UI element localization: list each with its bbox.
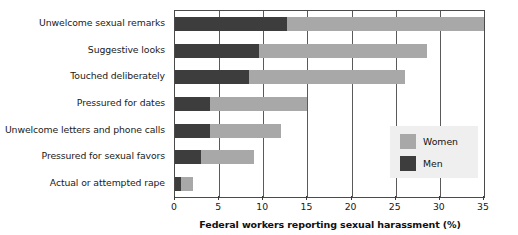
bar-segment-men	[175, 44, 259, 58]
x-tick-label: 5	[203, 201, 233, 212]
bar-row	[175, 44, 484, 58]
x-tick-mark	[395, 196, 396, 200]
x-tick-label: 0	[159, 201, 189, 212]
bar-segment-men	[175, 150, 201, 164]
bar-segment-women	[201, 150, 254, 164]
category-label: Unwelcome letters and phone calls	[0, 125, 165, 135]
legend-swatch	[400, 134, 416, 149]
x-tick-mark	[218, 196, 219, 200]
chart-legend: WomenMen	[390, 126, 478, 178]
category-label: Pressured for sexual favors	[0, 151, 165, 161]
bar-segment-women	[249, 70, 404, 84]
bar-segment-women	[181, 177, 192, 191]
bar-row	[175, 177, 484, 191]
bar-row	[175, 97, 484, 111]
category-label: Unwelcome sexual remarks	[0, 18, 165, 28]
bar-segment-men	[175, 17, 287, 31]
legend-label: Men	[423, 157, 443, 170]
x-tick-label: 25	[380, 201, 410, 212]
bar-chart: Unwelcome sexual remarksSuggestive looks…	[0, 0, 518, 235]
category-label: Pressured for dates	[0, 98, 165, 108]
bar-segment-women	[287, 17, 484, 31]
x-tick-label: 20	[336, 201, 366, 212]
x-tick-mark	[262, 196, 263, 200]
bar-row	[175, 17, 484, 31]
bar-segment-men	[175, 70, 249, 84]
category-axis-labels: Unwelcome sexual remarksSuggestive looks…	[0, 10, 170, 196]
category-label: Suggestive looks	[0, 45, 165, 55]
x-tick-mark	[174, 196, 175, 200]
x-tick-label: 30	[424, 201, 454, 212]
category-label: Actual or attempted rape	[0, 178, 165, 188]
bar-segment-women	[259, 44, 427, 58]
x-tick-mark	[483, 196, 484, 200]
bar-segment-women	[210, 124, 281, 138]
x-tick-label: 10	[247, 201, 277, 212]
bar-segment-men	[175, 124, 210, 138]
x-axis-title: Federal workers reporting sexual harassm…	[150, 219, 510, 230]
x-tick-mark	[439, 196, 440, 200]
bar-segment-women	[210, 97, 307, 111]
x-tick-mark	[306, 196, 307, 200]
x-tick-label: 35	[468, 201, 498, 212]
legend-swatch	[400, 156, 416, 171]
x-tick-label: 15	[291, 201, 321, 212]
bar-row	[175, 70, 484, 84]
bar-segment-men	[175, 97, 210, 111]
x-tick-mark	[351, 196, 352, 200]
category-label: Touched deliberately	[0, 71, 165, 81]
legend-label: Women	[423, 135, 458, 148]
